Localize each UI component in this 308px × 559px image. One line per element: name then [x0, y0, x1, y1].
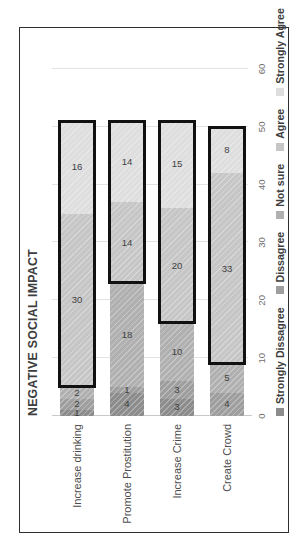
- category-label: Promote Prostitution: [121, 424, 133, 530]
- plot-area: NEGATIVE SOCIAL IMPACT 0102030405060 Inc…: [20, 28, 290, 534]
- legend-swatch-icon: [276, 211, 284, 219]
- legend-label: Agree: [274, 109, 286, 139]
- bar-segment[interactable]: 1: [60, 410, 94, 416]
- bar-value-label: 3: [174, 385, 179, 395]
- value-tick-label: 50: [256, 122, 267, 133]
- bar-value-label: 18: [122, 330, 133, 340]
- legend-item[interactable]: Not sure: [274, 164, 286, 219]
- bar-value-label: 10: [172, 348, 183, 358]
- bar-value-label: 4: [224, 400, 229, 410]
- bar-value-label: 30: [72, 296, 83, 306]
- bar-value-label: 8: [224, 145, 229, 155]
- value-tick-label: 60: [256, 64, 267, 75]
- bar-segment[interactable]: 16: [60, 121, 94, 214]
- value-tick-label: 0: [256, 413, 267, 418]
- table-row[interactable]: 1223016: [60, 69, 94, 416]
- table-row[interactable]: 41181414: [110, 69, 144, 416]
- legend-swatch-icon: [276, 286, 284, 294]
- value-tick-label: 40: [256, 179, 267, 190]
- bar-value-label: 14: [122, 157, 133, 167]
- bar-value-label: 2: [74, 400, 79, 410]
- bar-value-label: 33: [222, 264, 233, 274]
- rotated-chart-canvas: NEGATIVE SOCIAL IMPACT 0102030405060 Inc…: [20, 28, 290, 534]
- bar-value-label: 14: [122, 238, 133, 248]
- bar-segment[interactable]: 4: [110, 393, 144, 416]
- bar-segment[interactable]: 3: [160, 381, 194, 398]
- legend-swatch-icon: [276, 88, 284, 96]
- legend-item[interactable]: Agree: [274, 109, 286, 151]
- category-label: Create Crowd: [221, 424, 233, 530]
- legend-item[interactable]: Strongly Agree: [274, 8, 286, 96]
- legend-label: Not sure: [274, 164, 286, 207]
- bar-segment[interactable]: 15: [160, 121, 194, 208]
- bar-value-label: 1: [74, 410, 79, 416]
- legend-item[interactable]: Strongly Dissagree: [274, 307, 286, 416]
- bar-segment[interactable]: 10: [160, 323, 194, 381]
- bar-value-label: 15: [172, 160, 183, 170]
- bar-segment[interactable]: 30: [60, 214, 94, 388]
- bar-segment[interactable]: 14: [110, 121, 144, 202]
- category-label: Increase Crime: [171, 424, 183, 530]
- value-tick-label: 10: [256, 353, 267, 364]
- bar-segment[interactable]: 3: [160, 399, 194, 416]
- bar-value-label: 20: [172, 261, 183, 271]
- bar-segment[interactable]: 8: [210, 127, 244, 173]
- value-tick-label: 30: [256, 237, 267, 248]
- bar-segment[interactable]: 2: [60, 387, 94, 399]
- bar-segment[interactable]: 18: [110, 283, 144, 387]
- bar-value-label: 4: [124, 400, 129, 410]
- chart-page: NEGATIVE SOCIAL IMPACT 0102030405060 Inc…: [0, 0, 308, 559]
- chart-legend: Strongly DissagreeDissagreeNot sureAgree…: [272, 8, 288, 416]
- bar-segment[interactable]: 1: [110, 387, 144, 393]
- table-row[interactable]: 33102015: [160, 69, 194, 416]
- bar-value-label: 3: [174, 403, 179, 413]
- legend-label: Dissagree: [274, 232, 286, 283]
- chart-title: NEGATIVE SOCIAL IMPACT: [26, 66, 40, 416]
- chart-frame: NEGATIVE SOCIAL IMPACT 0102030405060 Inc…: [19, 27, 289, 533]
- bar-value-label: 5: [224, 374, 229, 384]
- bar-segment[interactable]: 4: [210, 393, 244, 416]
- bar-value-label: 2: [74, 388, 79, 398]
- bar-value-label: 16: [72, 163, 83, 173]
- category-label: Increase drinking: [71, 424, 83, 530]
- bar-segment[interactable]: 5: [210, 364, 244, 393]
- legend-item[interactable]: Dissagree: [274, 232, 286, 295]
- bar-segment[interactable]: 33: [210, 173, 244, 364]
- bar-segment[interactable]: 14: [110, 202, 144, 283]
- legend-label: Strongly Agree: [274, 8, 286, 84]
- legend-label: Strongly Dissagree: [274, 307, 286, 404]
- table-row[interactable]: 45338: [210, 69, 244, 416]
- bar-value-label: 1: [124, 387, 129, 393]
- bar-segment[interactable]: 2: [60, 399, 94, 411]
- value-tick-label: 20: [256, 295, 267, 306]
- legend-swatch-icon: [276, 143, 284, 151]
- legend-swatch-icon: [276, 408, 284, 416]
- bar-segment[interactable]: 20: [160, 208, 194, 324]
